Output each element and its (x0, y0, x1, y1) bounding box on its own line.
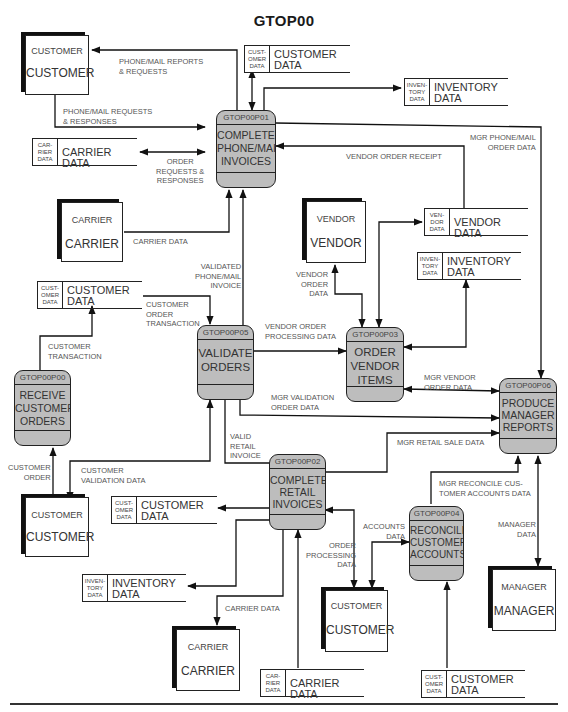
process-name: COMPLETE RETAIL INVOICES (270, 469, 325, 510)
flow-label: CUSTOMER ORDER TRANSACTION (146, 300, 200, 329)
flow-label: ORDER REQUESTS & RESPONSES (156, 157, 204, 186)
flow-label: VENDOR ORDER RECEIPT (346, 152, 442, 162)
process-gtop00p01[interactable]: GTOP00P01 COMPLETE PHONE/MAIL INVOICES (216, 110, 276, 188)
process-gtop00p04[interactable]: GTOP00P04 RECONCILE CUSTOMER ACCOUNTS (409, 506, 464, 581)
entity-label-small: CUSTOMER (26, 46, 88, 56)
store-tag: CUST- OMER DATA (421, 670, 447, 698)
entity-carrier-top[interactable]: CARRIER CARRIER (61, 202, 123, 262)
entity-label: VENDOR (307, 236, 365, 250)
store-customer-data-top[interactable]: CUST- OMER DATA CUSTOMER DATA (244, 45, 350, 73)
bottom-rule (10, 703, 558, 705)
entity-label: CUSTOMER (26, 66, 88, 80)
entity-vendor[interactable]: VENDOR VENDOR (306, 201, 366, 263)
process-gtop00p05[interactable]: GTOP00P05 VALIDATE ORDERS (197, 325, 254, 400)
process-name: PRODUCE MANAGER REPORTS (500, 393, 556, 433)
flow-label: CUSTOMER TRANSACTION (48, 342, 102, 361)
entity-label: CARRIER (177, 664, 239, 678)
process-gtop00p02[interactable]: GTOP00P02 COMPLETE RETAIL INVOICES (269, 454, 326, 530)
store-name: INVENTORY DATA (447, 256, 511, 278)
entity-label: MANAGER (493, 604, 555, 618)
store-tag: INVEN- TORY DATA (404, 78, 430, 106)
process-name: ORDER VENDOR ITEMS (347, 342, 403, 387)
store-name: CUSTOMER DATA (141, 500, 204, 522)
store-tag: CUST- OMER DATA (111, 496, 137, 524)
store-name: VENDOR DATA (454, 217, 528, 239)
process-name: VALIDATE ORDERS (198, 340, 253, 374)
entity-label: CUSTOMER (26, 530, 88, 544)
flow-label: MGR VENDOR ORDER DATA (424, 373, 476, 392)
entity-label-small: CARRIER (62, 215, 122, 225)
process-gtop00p00[interactable]: GTOP00P00 RECEIVE CUSTOMER ORDERS (14, 370, 71, 446)
store-carrier-data-bottom[interactable]: CAR- RIER DATA CARRIER DATA (260, 669, 364, 697)
flow-label: VENDOR ORDER PROCESSING DATA (265, 322, 336, 341)
flow-label: MANAGER DATA (498, 520, 536, 539)
flow-label: VENDOR ORDER DATA (296, 270, 328, 299)
store-customer-data-bottom-left[interactable]: CUST- OMER DATA CUSTOMER DATA (111, 496, 217, 524)
store-tag: INVEN- TORY DATA (82, 574, 108, 602)
flow-label: MGR PHONE/MAIL ORDER DATA (470, 133, 536, 152)
store-name: INVENTORY DATA (434, 82, 498, 104)
process-id: GTOP00P00 (15, 371, 70, 385)
store-customer-data-mid[interactable]: CUST- OMER DATA CUSTOMER DATA (37, 281, 142, 309)
process-id: GTOP00P02 (270, 455, 325, 469)
store-tag: CAR- RIER DATA (32, 138, 58, 166)
store-name: CARRIER DATA (62, 147, 137, 169)
flow-label: CARRIER DATA (133, 237, 188, 247)
entity-label-small: CARRIER (177, 642, 239, 652)
process-id: GTOP00P04 (410, 507, 463, 521)
entity-label: CARRIER (62, 237, 122, 251)
process-id: GTOP00P05 (198, 326, 253, 340)
store-inventory-data-mid[interactable]: INVEN- TORY DATA INVENTORY DATA (417, 252, 521, 280)
entity-carrier-bottom[interactable]: CARRIER CARRIER (176, 629, 240, 691)
process-name: RECONCILE CUSTOMER ACCOUNTS (410, 521, 463, 561)
process-name: RECEIVE CUSTOMER ORDERS (15, 385, 70, 428)
flow-label: ACCOUNTS DATA (363, 522, 405, 541)
entity-label-small: VENDOR (307, 214, 365, 224)
flow-label: CUSTOMER ORDER (8, 463, 51, 482)
flow-label: PHONE/MAIL REQUESTS & RESPONSES (63, 107, 152, 126)
entity-manager[interactable]: MANAGER MANAGER (492, 569, 556, 631)
store-name: CUSTOMER DATA (67, 285, 130, 307)
entity-label-small: MANAGER (493, 582, 555, 592)
flow-label: CARRIER DATA (225, 604, 280, 614)
entity-customer-bottom[interactable]: CUSTOMER CUSTOMER (325, 590, 388, 652)
store-tag: INVEN- TORY DATA (417, 252, 443, 280)
store-tag: CUST- OMER DATA (244, 45, 270, 73)
store-customer-data-bottom-right[interactable]: CUST- OMER DATA CUSTOMER DATA (421, 670, 525, 698)
flow-label: MGR RETAIL SALE DATA (397, 438, 484, 448)
entity-label-small: CUSTOMER (26, 510, 88, 520)
entity-customer-top[interactable]: CUSTOMER CUSTOMER (25, 35, 89, 95)
flow-label: MGR RECONCILE CUS- TOMER ACCOUNTS DATA (439, 479, 531, 498)
process-gtop00p03[interactable]: GTOP00P03 ORDER VENDOR ITEMS (346, 327, 404, 402)
entity-label: CUSTOMER (326, 623, 387, 637)
process-id: GTOP00P01 (217, 111, 275, 125)
flow-label: VALIDATED PHONE/MAIL INVOICE (195, 262, 241, 291)
flow-label: PHONE/MAIL REPORTS & REQUESTS (119, 57, 203, 76)
flow-label: CUSTOMER VALIDATION DATA (81, 466, 145, 485)
store-name: CUSTOMER DATA (451, 674, 514, 696)
store-carrier-data-top[interactable]: CAR- RIER DATA CARRIER DATA (32, 138, 137, 166)
flow-label: VALID RETAIL INVOICE (230, 432, 261, 461)
store-name: CARRIER DATA (290, 678, 364, 700)
process-name: COMPLETE PHONE/MAIL INVOICES (217, 125, 275, 168)
store-tag: CUST- OMER DATA (37, 281, 63, 309)
store-inventory-data-top[interactable]: INVEN- TORY DATA INVENTORY DATA (404, 78, 508, 106)
store-name: CUSTOMER DATA (274, 49, 337, 71)
store-vendor-data[interactable]: VEN- DOR DATA VENDOR DATA (424, 208, 528, 236)
store-tag: CAR- RIER DATA (260, 669, 286, 697)
flow-label: MGR VALIDATION ORDER DATA (271, 393, 334, 412)
entity-label-small: CUSTOMER (326, 601, 387, 611)
store-tag: VEN- DOR DATA (424, 208, 450, 236)
flow-label: ORDER PROCESSING DATA (306, 541, 356, 570)
process-id: GTOP00P03 (347, 328, 403, 342)
process-id: GTOP00P06 (500, 379, 556, 393)
process-gtop00p06[interactable]: GTOP00P06 PRODUCE MANAGER REPORTS (499, 378, 557, 454)
store-inventory-data-bottom[interactable]: INVEN- TORY DATA INVENTORY DATA (82, 574, 186, 602)
store-name: INVENTORY DATA (112, 578, 176, 600)
entity-customer-left[interactable]: CUSTOMER CUSTOMER (25, 497, 89, 557)
